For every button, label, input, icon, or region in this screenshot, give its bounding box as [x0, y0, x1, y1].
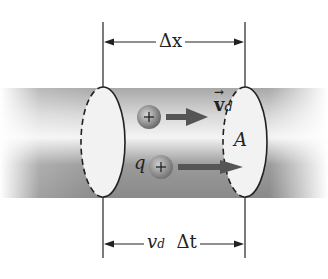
- charge-q-label: q: [131, 152, 149, 173]
- area-label: A: [231, 129, 250, 150]
- drift-velocity-label: → vd: [211, 94, 236, 115]
- drift-velocity-arrow-shaft: [166, 114, 188, 120]
- vd-dt-arrowhead-left: [104, 241, 114, 248]
- vd-dt-arrowhead-right: [234, 241, 244, 248]
- delta-x-arrowhead-left: [104, 39, 114, 46]
- delta-x-label: Δx: [156, 30, 185, 51]
- delta-x-arrowhead-right: [234, 39, 244, 46]
- vector-arrow-icon: →: [214, 85, 224, 99]
- displacement-arrow-shaft: [178, 164, 222, 170]
- conductor-fade: [0, 88, 328, 198]
- vd-dt-label: vd Δt: [144, 231, 200, 252]
